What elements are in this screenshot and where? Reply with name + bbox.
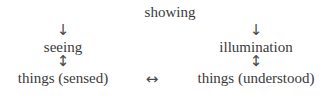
arrow-down-icon: ↓ [57,22,70,38]
arrow-updown-icon: ↕ [250,53,263,69]
arrow-leftright-icon: ↔ [146,71,159,87]
node-things-understood: things (understood) [197,70,314,86]
node-things-sensed: things (sensed) [18,70,108,86]
arrow-updown-icon: ↕ [57,53,70,69]
node-showing: showing [145,4,196,20]
arrow-down-icon: ↓ [250,22,263,38]
